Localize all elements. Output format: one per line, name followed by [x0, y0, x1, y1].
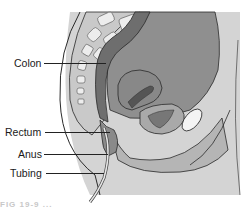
leader-line-colon	[44, 63, 106, 64]
leader-line-anus	[44, 154, 108, 155]
label-colon: Colon	[14, 58, 41, 69]
label-rectum: Rectum	[5, 127, 41, 138]
label-anus: Anus	[18, 149, 42, 160]
leader-line-tubing	[46, 173, 104, 174]
pelvis-diagram: Colon Rectum Anus Tubing FIG 19-9 ...	[0, 0, 249, 209]
label-tubing: Tubing	[10, 168, 42, 179]
figure-caption: FIG 19-9 ...	[0, 201, 52, 209]
leader-line-rectum	[45, 132, 110, 133]
